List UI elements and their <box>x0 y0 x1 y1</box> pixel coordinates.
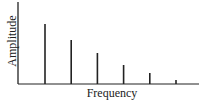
spectrum-lines <box>45 24 176 84</box>
x-axis-label: Frequency <box>84 86 140 100</box>
y-axis-label: Amplitude <box>5 11 19 71</box>
